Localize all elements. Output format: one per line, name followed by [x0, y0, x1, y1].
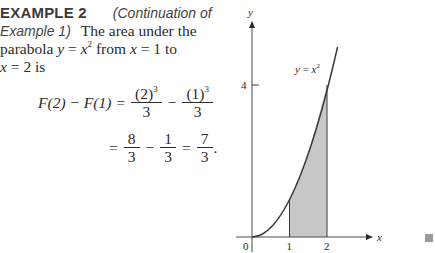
curve-label: y = x2 — [294, 62, 321, 75]
origin-label: 0 — [243, 240, 249, 252]
y-tick-label-4: 4 — [241, 79, 247, 91]
x-axis-label: x — [376, 231, 382, 243]
curve-label-eq: = — [300, 63, 312, 75]
parabola-area-graph: y x 4 0 1 2 y = x2 — [0, 0, 435, 253]
shaded-area-region — [290, 85, 328, 237]
end-of-example-square-icon — [425, 234, 433, 242]
y-axis-arrow-icon — [249, 21, 255, 28]
x-tick-label-1: 1 — [287, 240, 293, 252]
y-axis-label: y — [247, 6, 253, 18]
curve-label-exponent: 2 — [317, 62, 321, 70]
x-axis-arrow-icon — [366, 234, 373, 240]
x-tick-label-2: 2 — [324, 240, 330, 252]
